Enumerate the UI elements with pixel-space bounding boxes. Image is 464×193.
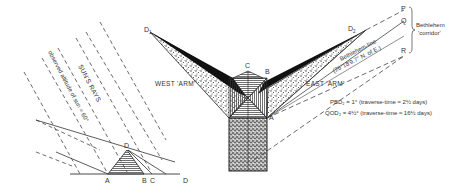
label-d2: D2 xyxy=(348,25,356,34)
label-b-left: B xyxy=(142,177,147,184)
label-a-left: A xyxy=(105,177,110,184)
note-pbd2: PBD₂ = 1° (traverse-time ≈ 2½ days) xyxy=(330,99,427,105)
sun-altitude-label: observed altitude of sun = 60° xyxy=(47,50,90,124)
label-d-apex: D xyxy=(124,142,129,149)
west-arm-label: WEST 'ARM' xyxy=(155,80,195,87)
pyramid-top-view xyxy=(229,71,267,118)
label-r: R xyxy=(401,47,406,54)
corridor-label-2: 'corridor' xyxy=(418,30,441,36)
corridor-brace xyxy=(409,7,415,53)
label-p: P xyxy=(401,5,406,12)
label-a: A xyxy=(269,114,274,121)
pyramid-triangle xyxy=(108,150,144,174)
label-d1: D1 xyxy=(144,26,152,35)
label-c-left: C xyxy=(150,177,155,184)
label-b: B xyxy=(265,68,270,75)
label-d-left: D xyxy=(183,177,188,184)
east-arm-label: EAST 'ARM' xyxy=(306,80,345,87)
suns-rays-label: SUN'S RAYS xyxy=(77,63,103,103)
arms-figure: C B A D1 D2 WEST 'ARM' EAST 'ARM' P Q R … xyxy=(144,5,445,171)
label-q: Q xyxy=(401,17,407,25)
note-qod2: QOD₂ = 4½° (traverse-time ≈ 16½ days) xyxy=(325,110,432,116)
corridor-label-1: Bethlehem xyxy=(416,22,445,28)
label-c: C xyxy=(245,62,250,69)
diagram-canvas: D A B C D SUN'S RAYS observed altitude o… xyxy=(0,0,464,193)
